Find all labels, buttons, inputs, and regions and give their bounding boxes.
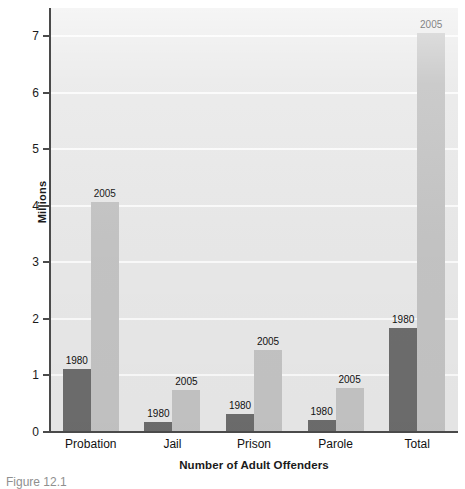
y-axis-line [49,8,51,433]
plot-area: 1980200519802005198020051980200519802005 [50,8,458,432]
x-axis-title: Number of Adult Offenders [50,459,458,471]
y-tick-4 [43,205,50,207]
y-tick-label-7: 7 [0,30,39,42]
y-tick-7 [43,35,50,37]
category-label-probation: Probation [50,438,132,451]
y-tick-label-1: 1 [0,369,39,381]
figure-caption: Figure 12.1 [6,476,67,489]
bar-probation-2005 [91,202,119,432]
y-tick-label-5: 5 [0,143,39,155]
bar-parole-2005 [336,388,364,432]
x-axis-line [49,431,458,433]
y-tick-6 [43,92,50,94]
y-tick-1 [43,374,50,376]
y-tick-label-3: 3 [0,256,39,268]
bar-prison-2005 [254,350,282,432]
y-tick-label-2: 2 [0,313,39,325]
gridline-7 [50,35,458,37]
y-tick-3 [43,261,50,263]
category-label-prison: Prison [213,438,295,451]
category-label-parole: Parole [295,438,377,451]
y-tick-5 [43,148,50,150]
bar-label-parole-2005: 2005 [330,375,370,385]
bar-label-probation-2005: 2005 [85,189,125,199]
category-label-total: Total [376,438,458,451]
y-tick-label-0: 0 [0,426,39,438]
bar-total-2005 [417,33,445,432]
category-label-jail: Jail [132,438,214,451]
y-tick-2 [43,318,50,320]
bar-label-prison-2005: 2005 [248,337,288,347]
gridline-6 [50,92,458,94]
bar-prison-1980 [226,414,254,432]
bar-probation-1980 [63,369,91,432]
y-tick-label-4: 4 [0,200,39,212]
gridline-5 [50,148,458,150]
y-tick-0 [43,431,50,433]
y-tick-label-6: 6 [0,87,39,99]
bar-total-1980 [389,328,417,432]
bar-label-jail-2005: 2005 [166,377,206,387]
bar-label-total-2005: 2005 [411,20,451,30]
bar-jail-2005 [172,390,200,432]
